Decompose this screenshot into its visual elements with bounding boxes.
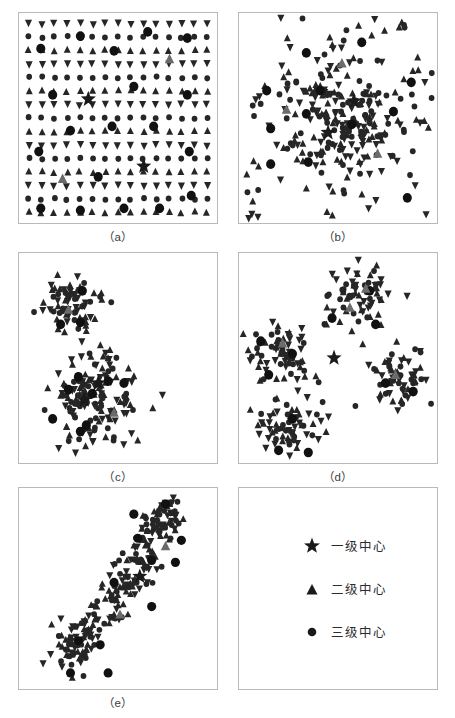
scatter-plot-c — [19, 253, 217, 463]
circle-icon — [301, 622, 323, 642]
panel-frame-b — [238, 12, 438, 224]
scatter-plot-e — [19, 488, 217, 689]
scatter-plot-a — [19, 13, 217, 223]
legend-item-2: 二级中心 — [301, 567, 387, 610]
legend-item-label: 二级中心 — [331, 579, 387, 598]
panel-b — [238, 12, 438, 224]
central-place-pattern-figure: （a）（b）（c）（d）（e）一级中心二级中心三级中心 — [0, 0, 455, 718]
panel-frame-a — [18, 12, 218, 224]
panel-a — [18, 12, 218, 224]
panel-label-d: （d） — [238, 468, 438, 484]
legend-list: 一级中心二级中心三级中心 — [239, 488, 437, 689]
panel-frame-d — [238, 252, 438, 464]
panel-label-a: （a） — [18, 228, 218, 244]
panel-c — [18, 252, 218, 464]
legend-item-label: 一级中心 — [331, 536, 387, 555]
panel-frame-c — [18, 252, 218, 464]
scatter-plot-d — [239, 253, 437, 463]
legend-item-label: 三级中心 — [331, 622, 387, 641]
panel-label-e: （e） — [18, 694, 218, 710]
panel-d — [238, 252, 438, 464]
panel-legend: 一级中心二级中心三级中心 — [238, 487, 438, 690]
legend-item-1: 一级中心 — [301, 524, 387, 567]
panel-frame-e — [18, 487, 218, 690]
panel-e — [18, 487, 218, 690]
scatter-plot-b — [239, 13, 437, 223]
legend-item-3: 三级中心 — [301, 610, 387, 653]
panel-label-b: （b） — [238, 228, 438, 244]
panel-frame-legend: 一级中心二级中心三级中心 — [238, 487, 438, 690]
star-icon — [301, 536, 323, 556]
triangle-icon — [301, 579, 323, 599]
panel-label-c: （c） — [18, 468, 218, 484]
